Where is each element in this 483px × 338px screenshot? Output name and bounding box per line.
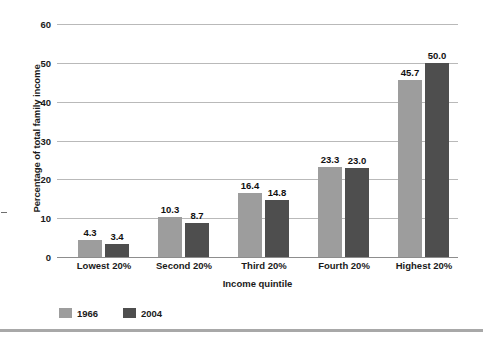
legend-item-1966[interactable]: 1966: [59, 303, 98, 315]
bars-row: 23.3 23.0: [309, 24, 379, 257]
x-tick-label-lowest-20: Lowest 20%: [69, 260, 139, 271]
legend-swatch-2004-icon: [123, 308, 136, 318]
y-tick-label-40: 40: [40, 96, 51, 107]
bar-2004-third-20[interactable]: [265, 200, 289, 258]
bar-2004-second-20[interactable]: [185, 223, 209, 257]
x-tick-label-fourth-20: Fourth 20%: [309, 260, 379, 271]
x-axis-title: Income quintile: [57, 278, 458, 289]
y-tick-label-0: 0: [46, 252, 51, 263]
bar-group-third-20: 16.4 14.8 Third 20%: [229, 24, 299, 257]
y-tick-label-30: 30: [40, 135, 51, 146]
x-tick-label-highest-20: Highest 20%: [389, 260, 459, 271]
bar-1966-lowest-20[interactable]: [78, 240, 102, 257]
bar-1966-second-20[interactable]: [158, 217, 182, 257]
y-tick-label-50: 50: [40, 57, 51, 68]
bar-1966-highest-20[interactable]: [398, 80, 422, 257]
bar-1966-fourth-20[interactable]: [318, 167, 342, 258]
bar-1966-third-20[interactable]: [238, 193, 262, 257]
bar-2004-fourth-20[interactable]: [345, 168, 369, 257]
bar-value-2004-third-20: 14.8: [257, 187, 297, 198]
legend-label-2004: 2004: [141, 308, 162, 319]
bar-group-lowest-20: 4.3 3.4 Lowest 20%: [69, 24, 139, 257]
y-tick-label-60: 60: [40, 19, 51, 30]
bar-chart-figure: Percentage of total family income 60 50 …: [0, 0, 483, 338]
bar-group-second-20: 10.3 8.7 Second 20%: [149, 24, 219, 257]
axis-baseline-0: 0: [57, 257, 458, 258]
bar-value-2004-second-20: 8.7: [177, 210, 217, 221]
bars-row: 4.3 3.4: [69, 24, 139, 257]
bar-group-highest-20: 45.7 50.0 Highest 20%: [389, 24, 459, 257]
bars-row: 10.3 8.7: [149, 24, 219, 257]
legend-swatch-1966-icon: [59, 308, 72, 318]
x-tick-label-third-20: Third 20%: [229, 260, 299, 271]
bar-value-2004-fourth-20: 23.0: [337, 155, 377, 166]
bar-value-1966-highest-20: 45.7: [390, 67, 430, 78]
legend-label-1966: 1966: [77, 308, 98, 319]
legend-item-2004[interactable]: 2004: [123, 303, 162, 315]
bar-groups: 4.3 3.4 Lowest 20% 10.3 8.7 Second 20% 1…: [57, 24, 458, 257]
bar-value-2004-highest-20: 50.0: [417, 50, 457, 61]
bar-group-fourth-20: 23.3 23.0 Fourth 20%: [309, 24, 379, 257]
bottom-divider: [0, 329, 483, 332]
bar-value-2004-lowest-20: 3.4: [97, 231, 137, 242]
bars-row: 45.7 50.0: [389, 24, 459, 257]
bar-2004-lowest-20[interactable]: [105, 244, 129, 257]
y-tick-label-10: 10: [40, 213, 51, 224]
bar-2004-highest-20[interactable]: [425, 63, 449, 257]
bars-row: 16.4 14.8: [229, 24, 299, 257]
y-tick-label-20: 20: [40, 174, 51, 185]
x-tick-label-second-20: Second 20%: [149, 260, 219, 271]
left-margin-tick-mark: [1, 212, 7, 213]
